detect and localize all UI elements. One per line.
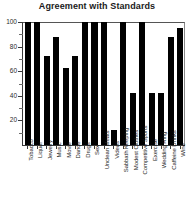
bar [53, 37, 59, 145]
bar-slot [71, 22, 81, 145]
bar-slot [42, 22, 52, 145]
bar-slot [128, 22, 138, 145]
bar-slot [52, 22, 62, 145]
y-tick-label-100: 100 [0, 19, 17, 25]
x-label-slot: Tobacco [23, 150, 33, 212]
bar [101, 22, 107, 145]
x-label-slot: Videos [109, 150, 119, 212]
y-tick-label-20: 20 [0, 117, 17, 123]
x-label-slot: Jewelry [42, 150, 52, 212]
x-label-slot: Sabbath Keeping [118, 150, 128, 212]
bar-slot [80, 22, 90, 145]
x-label-slot: Sex [90, 150, 100, 212]
bar [120, 22, 126, 145]
chart-title: Agreement with Standards [0, 1, 194, 12]
bar-slot [23, 22, 33, 145]
bar [168, 37, 174, 145]
x-label-slot: Exercise [147, 150, 157, 212]
bar-slot [147, 22, 157, 145]
bar [72, 56, 78, 145]
bar-slot [118, 22, 128, 145]
bar-slot [99, 22, 109, 145]
bar [149, 93, 155, 145]
x-label-slot: Movie [61, 150, 71, 212]
bar-slot [61, 22, 71, 145]
bar [177, 28, 183, 145]
bar-slot [156, 22, 166, 145]
bar [82, 22, 88, 145]
bar [63, 68, 69, 145]
x-label-slot: Caffeine Drinks [166, 150, 176, 212]
bar-slot [176, 22, 186, 145]
x-label-slot: Dance [71, 150, 81, 212]
bar-chart: Agreement with Standards 10080604020 Tob… [0, 0, 194, 212]
x-axis-labels: TobaccoLiquorJewelryMusicMovieDanceDrugs… [23, 150, 185, 212]
bar [34, 22, 40, 145]
bar [91, 22, 97, 145]
y-tick-label-80: 80 [0, 44, 17, 50]
x-axis-label: Wine [180, 143, 186, 156]
y-tick-label-40: 40 [0, 93, 17, 99]
bar-series [23, 22, 185, 145]
x-label-slot: Music [52, 150, 62, 212]
y-tick-label-60: 60 [0, 68, 17, 74]
bar [25, 22, 31, 145]
x-label-slot: Wedding Ring [156, 150, 166, 212]
bar [44, 56, 50, 145]
x-label-slot: Wine [176, 150, 186, 212]
x-label-slot: Competitive Sports [137, 150, 147, 212]
bar-slot [109, 22, 119, 145]
x-label-slot: Modest Clothes [128, 150, 138, 212]
x-label-slot: Drugs [80, 150, 90, 212]
bar-slot [166, 22, 176, 145]
x-label-slot: Liquor [33, 150, 43, 212]
x-label-slot: Unclean Meats [99, 150, 109, 212]
bar-slot [90, 22, 100, 145]
bar-slot [33, 22, 43, 145]
